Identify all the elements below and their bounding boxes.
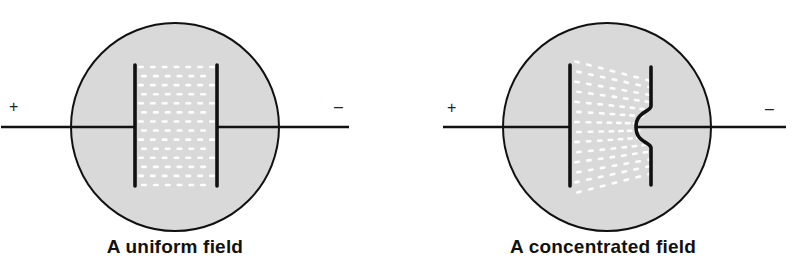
positive-terminal-sign-uniform: +: [9, 99, 18, 115]
diagram-canvas: [0, 0, 794, 263]
positive-terminal-sign-concentrated: +: [447, 100, 456, 116]
concentrated-field-figure: [443, 23, 786, 231]
negative-terminal-sign-concentrated: –: [765, 101, 774, 117]
caption-uniform-field: A uniform field: [107, 236, 243, 258]
caption-concentrated-field: A concentrated field: [510, 236, 696, 258]
negative-terminal-sign-uniform: –: [334, 99, 343, 115]
uniform-field-figure: [1, 23, 349, 231]
